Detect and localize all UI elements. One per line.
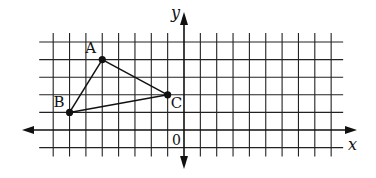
x-axis-left-arrow-icon	[22, 126, 34, 134]
point-a-label: A	[85, 41, 96, 56]
point-a-dot-icon	[99, 56, 106, 63]
coordinate-plane-diagram: y x 0 A B C	[0, 0, 376, 178]
y-axis-down-arrow-icon	[180, 156, 188, 169]
y-axis-up-arrow-icon	[180, 12, 188, 25]
x-axis-label: x	[348, 137, 357, 153]
point-b-dot-icon	[66, 109, 73, 116]
y-axis-label: y	[171, 5, 180, 21]
point-b-label: B	[54, 95, 65, 110]
grid-canvas	[0, 0, 376, 178]
point-c-label: C	[171, 96, 182, 111]
axes	[22, 12, 357, 169]
x-axis-right-arrow-icon	[345, 126, 357, 134]
origin-label: 0	[172, 133, 181, 147]
